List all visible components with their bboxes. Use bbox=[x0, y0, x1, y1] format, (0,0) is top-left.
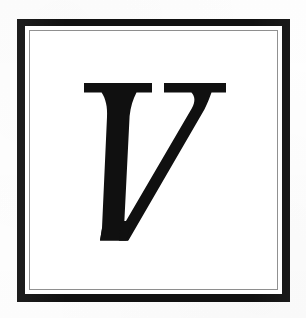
interior-field: V bbox=[30, 31, 277, 289]
outer-black-rule: V bbox=[17, 19, 290, 302]
inner-grey-hairline: V bbox=[29, 30, 278, 290]
white-gap: V bbox=[25, 26, 282, 294]
framed-initial-canvas: V bbox=[0, 0, 306, 318]
initial-letter-v-icon bbox=[80, 81, 230, 243]
